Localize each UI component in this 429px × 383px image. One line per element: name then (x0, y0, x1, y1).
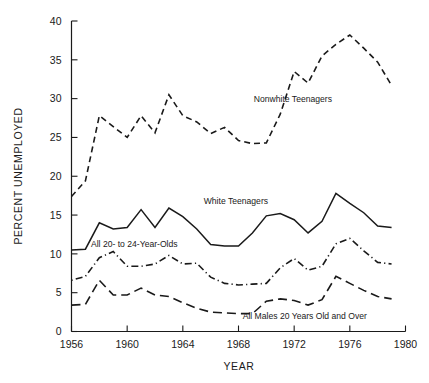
series-label-1: White Teenagers (204, 196, 268, 206)
y-axis-tick-labels: 0510152025303540 (50, 15, 62, 338)
series-line-3 (72, 276, 392, 313)
series-label-3: All Males 20 Years Old and Over (243, 311, 367, 321)
series-label-2: All 20- to 24-Year-Olds (91, 239, 178, 249)
y-tick-label: 35 (50, 54, 62, 66)
y-tick-label: 25 (50, 131, 62, 143)
y-tick-label: 5 (56, 286, 62, 298)
x-axis-tick-labels: 1956196019641968197219761980 (60, 338, 418, 350)
x-tick-label: 1976 (338, 338, 362, 350)
y-tick-label: 10 (50, 248, 62, 260)
x-tick-label: 1960 (115, 338, 139, 350)
y-axis-ticks (72, 21, 78, 332)
x-tick-label: 1956 (60, 338, 84, 350)
chart-canvas: 0510152025303540 19561960196419681972197… (0, 0, 429, 383)
series-line-0 (72, 35, 392, 196)
axes-group: 0510152025303540 19561960196419681972197… (50, 15, 418, 350)
data-series-group (72, 35, 392, 314)
x-tick-label: 1980 (394, 338, 418, 350)
x-tick-label: 1968 (227, 338, 251, 350)
x-axis-title: YEAR (224, 360, 255, 372)
x-tick-label: 1972 (282, 338, 306, 350)
y-tick-label: 0 (56, 325, 62, 337)
y-tick-label: 40 (50, 15, 62, 27)
y-tick-label: 20 (50, 170, 62, 182)
x-tick-label: 1964 (171, 338, 195, 350)
y-tick-label: 30 (50, 92, 62, 104)
y-axis-title: PERCENT UNEMPLOYED (12, 107, 24, 244)
series-label-0: Nonwhite Teenagers (254, 94, 332, 104)
y-tick-label: 15 (50, 209, 62, 221)
unemployment-rate-chart: 0510152025303540 19561960196419681972197… (0, 0, 429, 383)
x-axis-ticks (72, 326, 406, 332)
